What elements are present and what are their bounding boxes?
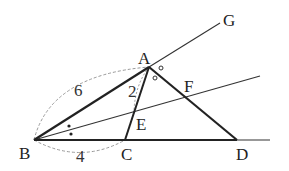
label-point-f: F bbox=[184, 77, 193, 96]
label-point-e: E bbox=[136, 115, 146, 134]
angle-circle-mark bbox=[159, 66, 163, 70]
label-point-d: D bbox=[236, 145, 248, 164]
geometry-figure: A B C D E F G 6 4 2 bbox=[0, 0, 289, 171]
angle-dot-mark bbox=[69, 132, 72, 135]
label-length-bc: 4 bbox=[76, 147, 85, 166]
ray-ag bbox=[149, 23, 220, 67]
angle-dot-mark bbox=[67, 124, 70, 127]
angle-circle-mark bbox=[153, 76, 157, 80]
label-length-ab: 6 bbox=[74, 81, 83, 100]
label-point-b: B bbox=[19, 144, 30, 163]
label-point-g: G bbox=[223, 11, 235, 30]
segment-ab bbox=[34, 67, 149, 140]
label-point-c: C bbox=[121, 145, 132, 164]
label-length-ae: 2 bbox=[128, 82, 137, 101]
label-point-a: A bbox=[138, 49, 151, 68]
